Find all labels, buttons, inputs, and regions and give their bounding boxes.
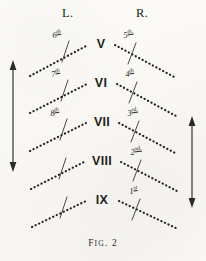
ordinal-suffix: nd. [134, 145, 142, 152]
ordinal-right-3rd: 3rd. [127, 107, 139, 118]
ordinal-right-1st: 1st [129, 185, 139, 196]
caption-smallcaps: IG [95, 239, 105, 248]
ordinal-suffix: rd. [131, 106, 138, 113]
header-label-right: R. [136, 6, 148, 21]
ordinal-suffix: th [56, 28, 61, 35]
ordinal-suffix: th [55, 67, 60, 74]
ordinal-suffix: th [129, 67, 134, 74]
roman-numeral-IX: IX [96, 193, 108, 207]
ordinal-right-4th: 4th [125, 68, 135, 79]
ordinal-right-2nd: 2nd. [130, 145, 143, 157]
ordinal-suffix: th [54, 106, 59, 113]
ordinal-right-5th: 5th. [123, 29, 135, 40]
roman-numeral-VIII: VIII [92, 154, 112, 168]
ordinal-left-7th: 7th [51, 68, 61, 79]
ordinal-suffix: th. [127, 28, 134, 35]
ordinal-suffix: st [133, 184, 138, 191]
figure-page: .dotline { stroke: #232220; stroke-width… [0, 0, 206, 261]
header-label-left: L. [62, 6, 74, 21]
left-vertical-double-arrow [10, 60, 17, 172]
caption-suffix: . 2 [105, 238, 118, 248]
roman-numeral-VII: VII [94, 115, 110, 129]
roman-numeral-V: V [97, 37, 106, 51]
figure-caption: FIG. 2 [0, 238, 206, 248]
right-vertical-double-arrow [189, 116, 196, 208]
ordinal-left-6th: 6th [52, 29, 62, 40]
ordinal-left-8th: 8th [50, 107, 60, 118]
roman-numeral-VI: VI [95, 76, 107, 90]
